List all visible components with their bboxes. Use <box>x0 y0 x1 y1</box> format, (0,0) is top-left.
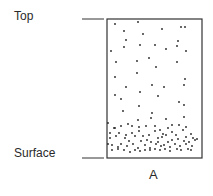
particle-dot <box>145 125 147 127</box>
particle-dot <box>192 137 194 139</box>
particle-dot <box>137 21 139 23</box>
particle-dot <box>185 50 187 52</box>
particle-dot <box>139 91 141 93</box>
particle-dot <box>123 46 125 48</box>
particle-dot <box>184 78 186 80</box>
particle-dot <box>144 144 146 146</box>
particle-dots <box>107 21 198 153</box>
particle-dot <box>150 117 152 119</box>
particle-dot <box>185 143 187 145</box>
particle-dot <box>178 101 180 103</box>
particle-dot <box>174 143 176 145</box>
particle-dot <box>188 141 190 143</box>
particle-dot <box>180 26 182 28</box>
particle-dot <box>164 148 166 150</box>
particle-dot <box>155 143 157 145</box>
particle-dot <box>125 86 127 88</box>
particle-dot <box>163 144 165 146</box>
particle-dot <box>146 139 148 141</box>
particle-dot <box>182 129 184 131</box>
particle-dot <box>114 76 116 78</box>
particle-dot <box>109 132 111 134</box>
particle-dot <box>117 148 119 150</box>
particle-dot <box>149 149 151 151</box>
particle-dot <box>132 143 134 145</box>
particle-dot <box>125 134 127 136</box>
particle-dot <box>177 138 179 140</box>
particle-dot <box>138 130 140 132</box>
particle-dot <box>161 28 163 30</box>
column-box <box>107 19 202 158</box>
particle-dot <box>114 94 116 96</box>
particle-dot <box>139 44 141 46</box>
particle-dot <box>185 136 187 138</box>
particle-dot <box>140 140 142 142</box>
particle-dot <box>196 138 198 140</box>
particle-dot <box>169 146 171 148</box>
particle-dot <box>139 150 141 152</box>
particle-dot <box>138 105 140 107</box>
particle-dot <box>187 148 189 150</box>
particle-dot <box>176 61 178 63</box>
particle-dot <box>109 137 111 139</box>
particle-dot <box>171 131 173 133</box>
particle-dot <box>157 141 159 143</box>
particle-dot <box>123 30 125 32</box>
particle-dot <box>165 48 167 50</box>
particle-dot <box>126 145 128 147</box>
particle-dot <box>122 110 124 112</box>
particle-dot <box>115 135 117 137</box>
particle-dot <box>183 116 185 118</box>
particle-dot <box>159 129 161 131</box>
particle-dot <box>142 135 144 137</box>
particle-dot <box>136 72 138 74</box>
particle-dot <box>171 124 173 126</box>
particle-dot <box>184 26 186 28</box>
particle-dot <box>136 60 138 62</box>
particle-column-diagram <box>0 0 213 196</box>
particle-dot <box>149 147 151 149</box>
particle-dot <box>167 127 169 129</box>
particle-dot <box>154 44 156 46</box>
particle-dot <box>194 139 196 141</box>
particle-dot <box>161 136 163 138</box>
particle-dot <box>167 141 169 143</box>
particle-dot <box>180 149 182 151</box>
particle-dot <box>190 133 192 135</box>
particle-dot <box>157 137 159 139</box>
particle-dot <box>183 84 185 86</box>
particle-dot <box>176 45 178 47</box>
particle-dot <box>137 119 139 121</box>
particle-dot <box>138 126 140 128</box>
particle-dot <box>162 133 164 135</box>
particle-dot <box>123 149 125 151</box>
particle-dot <box>157 95 159 97</box>
particle-dot <box>120 98 122 100</box>
particle-dot <box>150 141 152 143</box>
particle-dot <box>169 150 171 152</box>
particle-dot <box>115 61 117 63</box>
particle-dot <box>191 145 193 147</box>
particle-dot <box>127 123 129 125</box>
particle-dot <box>163 86 165 88</box>
particle-dot <box>155 66 157 68</box>
particle-dot <box>183 104 185 106</box>
particle-dot <box>190 149 192 151</box>
particle-dot <box>117 146 119 148</box>
particle-dot <box>125 39 127 41</box>
particle-dot <box>120 125 122 127</box>
particle-dot <box>176 148 178 150</box>
particle-dot <box>179 145 181 147</box>
particle-dot <box>183 140 185 142</box>
particle-dot <box>124 137 126 139</box>
particle-dot <box>148 134 150 136</box>
particle-dot <box>151 112 153 114</box>
particle-dot <box>154 148 156 150</box>
particle-dot <box>107 122 109 124</box>
particle-dot <box>160 145 162 147</box>
particle-dot <box>134 149 136 151</box>
particle-dot <box>165 118 167 120</box>
particle-dot <box>111 144 113 146</box>
particle-dot <box>177 40 179 42</box>
particle-dot <box>154 125 156 127</box>
